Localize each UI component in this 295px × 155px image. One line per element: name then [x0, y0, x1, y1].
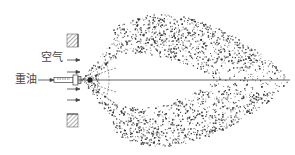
heavy-oil-label: 重油 [15, 74, 37, 85]
lower-wall-block [67, 114, 78, 127]
burner-spray-diagram [0, 0, 295, 155]
oil-nozzle [54, 75, 81, 85]
upper-wall-block [67, 34, 78, 47]
air-label: 空气 [41, 52, 63, 63]
oil-feed-arrow [38, 79, 54, 82]
